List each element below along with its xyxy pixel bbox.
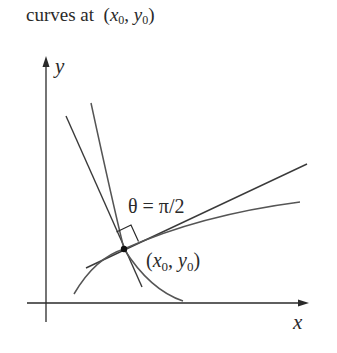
x-axis-arrow-icon	[298, 300, 309, 307]
y-axis-arrow-icon	[43, 56, 50, 67]
point-label: (x0, y0)	[146, 249, 200, 274]
x-axis-label: x	[292, 310, 303, 334]
axes	[27, 62, 303, 322]
angle-label: θ = π/2	[128, 195, 185, 217]
y-axis-label: y	[53, 54, 65, 78]
orthogonal-curves-diagram: y x θ = π/2 (x0, y0)	[0, 0, 337, 353]
curve-2	[74, 202, 300, 294]
intersection-point	[121, 246, 127, 252]
